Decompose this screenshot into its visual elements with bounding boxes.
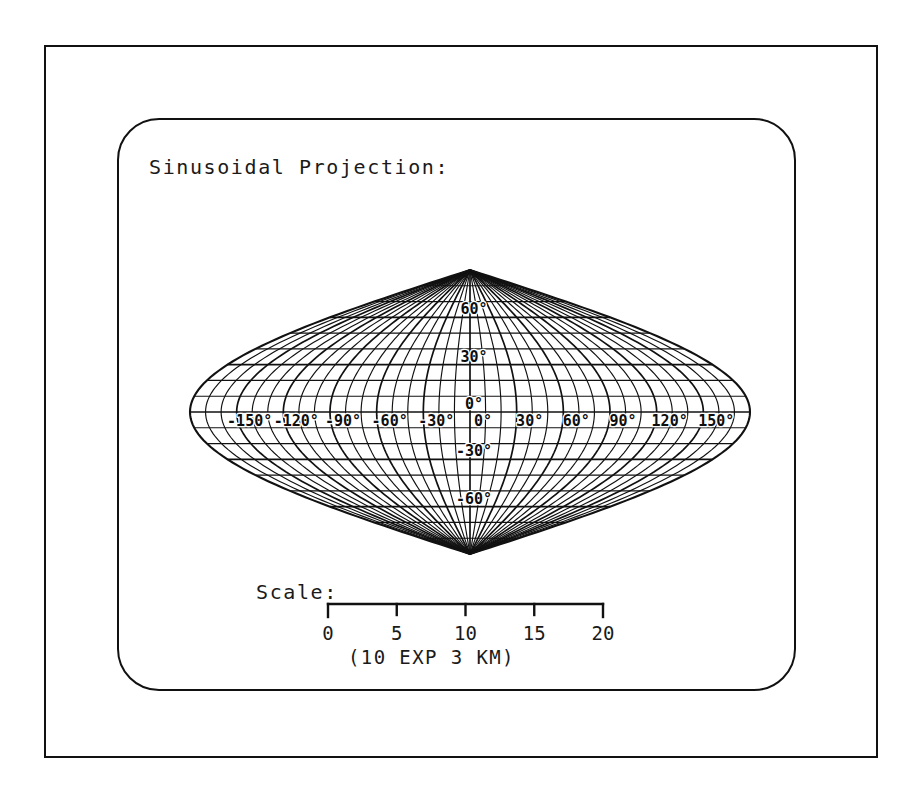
scale-tick-value: 15 bbox=[523, 622, 546, 644]
latitude-tick-label: 30° bbox=[460, 348, 487, 366]
longitude-tick-label: -120° bbox=[274, 412, 319, 430]
scale-tick-value: 5 bbox=[391, 622, 402, 644]
page-title: Sinusoidal Projection: bbox=[149, 155, 449, 179]
latitude-tick-label: 0° bbox=[465, 395, 483, 413]
sinusoidal-map: -150°-120°-90°-60°-30°0°30°60°90°120°150… bbox=[150, 255, 790, 565]
scale-tick-labels: 05101520 bbox=[300, 622, 640, 648]
longitude-tick-label: 90° bbox=[609, 412, 636, 430]
longitude-tick-label: -90° bbox=[325, 412, 361, 430]
longitude-tick-label: 120° bbox=[652, 412, 688, 430]
scale-tick-value: 0 bbox=[322, 622, 333, 644]
scale-units-caption: (10 EXP 3 KM) bbox=[348, 646, 515, 668]
longitude-tick-label: -60° bbox=[372, 412, 408, 430]
longitude-tick-label: 150° bbox=[698, 412, 734, 430]
latitude-tick-label: -30° bbox=[456, 442, 492, 460]
latitude-tick-label: -60° bbox=[456, 490, 492, 508]
graticule-svg: -150°-120°-90°-60°-30°0°30°60°90°120°150… bbox=[150, 255, 790, 565]
longitude-tick-label: 60° bbox=[563, 412, 590, 430]
scale-tick-value: 20 bbox=[592, 622, 615, 644]
longitude-tick-label: 0° bbox=[474, 412, 492, 430]
longitude-tick-label: -30° bbox=[418, 412, 454, 430]
latitude-tick-label: 60° bbox=[460, 300, 487, 318]
longitude-tick-label: 30° bbox=[516, 412, 543, 430]
latitude-labels-group: 60°30°0°-30°-60° bbox=[456, 300, 492, 507]
scale-rule-group bbox=[328, 604, 603, 617]
longitude-labels-group: -150°-120°-90°-60°-30°0°30°60°90°120°150… bbox=[227, 412, 734, 430]
longitude-tick-label: -150° bbox=[227, 412, 272, 430]
scale-tick-value: 10 bbox=[454, 622, 477, 644]
figure-root: Sinusoidal Projection: -150°-120°-90°-60… bbox=[0, 0, 924, 804]
